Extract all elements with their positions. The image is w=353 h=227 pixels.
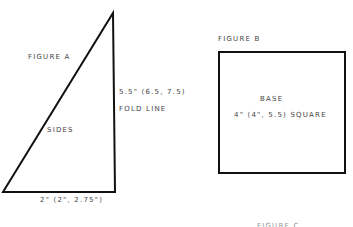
sides-label: SIDES xyxy=(47,126,74,134)
square-size-label: 4" (4", 5.5) SQUARE xyxy=(234,111,327,119)
figure-c-title: FIGURE C xyxy=(257,222,300,227)
figure-a-triangle xyxy=(3,13,115,192)
figure-a-title: FIGURE A xyxy=(28,53,71,61)
figure-a-height-label: 5.5" (6.5, 7.5) xyxy=(119,88,186,96)
figure-b-title: FIGURE B xyxy=(218,35,261,43)
figure-a-base-label: 2" (2", 2.75") xyxy=(40,196,103,204)
fold-line-label: FOLD LINE xyxy=(119,105,166,113)
base-label: BASE xyxy=(260,95,283,103)
